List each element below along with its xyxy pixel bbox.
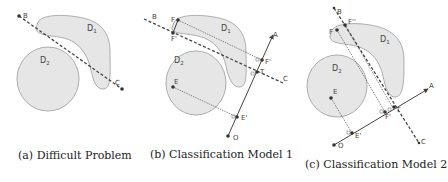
label-t: T <box>259 68 265 76</box>
label-f-proj: F' <box>265 58 271 66</box>
caption-panel-b: (b) Classification Model 1 <box>150 148 293 161</box>
right-angle-marker <box>380 110 383 113</box>
label-f: F <box>171 16 175 24</box>
label-f-dd: F'' <box>348 18 356 26</box>
label-a: A <box>273 31 278 39</box>
right-angle-marker <box>388 108 391 111</box>
label-b: B <box>23 12 28 20</box>
label-c: C <box>421 138 426 146</box>
region-d2 <box>17 47 79 111</box>
label-a: A <box>429 82 434 90</box>
label-o: O <box>338 142 344 150</box>
point-e-proj <box>350 131 354 135</box>
point-e-proj <box>235 115 239 119</box>
label-f-on-bc: F' <box>171 35 177 43</box>
point-b <box>333 7 336 10</box>
label-t: T <box>395 106 401 114</box>
point-t <box>255 70 259 74</box>
right-angle-marker <box>256 58 259 61</box>
point-c <box>120 87 124 91</box>
figure: B C D1 D2 <box>0 0 448 182</box>
panel-c: B F'' F A T F' C E E' O D1 D2 <box>307 7 434 150</box>
label-c: C <box>115 79 120 87</box>
point-f-proj <box>260 58 264 62</box>
label-e-proj: E' <box>355 132 361 140</box>
point-o <box>332 143 336 147</box>
label-e: E <box>333 88 337 96</box>
label-e-proj: E' <box>241 114 247 122</box>
caption-panel-c: (c) Classification Model 2 <box>305 158 447 171</box>
caption-panel-a: (a) Difficult Problem <box>18 149 132 162</box>
point-b <box>17 14 21 18</box>
right-angle-marker <box>347 131 350 134</box>
point-c <box>418 142 421 145</box>
label-e: E <box>174 78 178 86</box>
label-f-proj: F' <box>385 113 391 121</box>
point-e <box>329 96 333 100</box>
point-f <box>176 18 180 22</box>
label-c: C <box>283 75 288 83</box>
panel-a: B C D1 D2 <box>17 12 124 111</box>
label-b: B <box>152 13 157 21</box>
point-f <box>335 28 339 32</box>
point-f-dd <box>343 23 347 27</box>
label-b: B <box>337 8 342 16</box>
point-o <box>226 134 230 138</box>
panel-b: B F F' A F' T C E E' O D1 D2 <box>144 13 288 142</box>
label-f: F <box>329 28 333 36</box>
right-angle-marker <box>251 72 254 75</box>
label-o: O <box>233 134 239 142</box>
